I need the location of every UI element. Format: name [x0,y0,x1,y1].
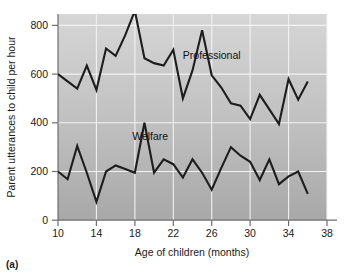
y-tick-label-0: 0 [42,214,48,226]
y-tick-label-200: 200 [30,165,48,177]
x-tick-label-34: 34 [283,227,295,239]
series-label-professional: Professional [183,49,241,61]
y-tick-label-800: 800 [30,19,48,31]
y-tick-label-400: 400 [30,116,48,128]
x-tick-label-14: 14 [91,227,103,239]
x-tick-label-38: 38 [321,227,333,239]
plot-area-background [58,14,327,220]
x-tick-label-26: 26 [206,227,218,239]
x-tick-label-22: 22 [167,227,179,239]
y-tick-label-600: 600 [30,68,48,80]
x-tick-label-30: 30 [244,227,256,239]
x-tick-label-10: 10 [52,227,64,239]
series-label-welfare: Welfare [132,130,168,142]
figure-panel-a: 800 600 400 200 0 10 14 18 22 26 30 34 3… [0,0,346,278]
x-tick-label-18: 18 [129,227,141,239]
line-chart: 800 600 400 200 0 10 14 18 22 26 30 34 3… [0,0,346,278]
panel-caption: (a) [6,259,18,270]
x-axis-title: Age of children (months) [135,246,249,258]
y-axis-title: Parent utterances to child per hour [5,36,17,198]
